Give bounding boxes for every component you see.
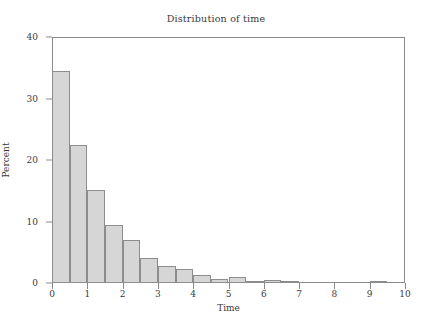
x-tick-mark [299,283,300,289]
x-tick-label: 9 [367,289,373,299]
x-axis-title: Time [52,303,405,313]
x-tick-mark [229,283,230,289]
x-tick-mark [123,283,124,289]
x-tick-label: 0 [49,289,55,299]
x-tick-label: 2 [120,289,126,299]
x-tick-label: 5 [226,289,232,299]
x-tick-mark [87,283,88,289]
x-tick-label: 1 [84,289,90,299]
x-tick-mark [370,283,371,289]
histogram-figure: Distribution of time Percent 010203040 T… [0,0,432,326]
x-tick-mark [193,283,194,289]
x-tick-mark [264,283,265,289]
x-tick-label: 8 [332,289,338,299]
x-tick-mark [158,283,159,289]
x-tick-mark [405,283,406,289]
x-tick-mark [334,283,335,289]
x-axis: Time 012345678910 [0,0,432,326]
x-tick-label: 6 [261,289,267,299]
x-tick-label: 4 [190,289,196,299]
x-tick-label: 7 [296,289,302,299]
x-tick-label: 10 [399,289,410,299]
x-tick-mark [52,283,53,289]
x-tick-label: 3 [155,289,161,299]
